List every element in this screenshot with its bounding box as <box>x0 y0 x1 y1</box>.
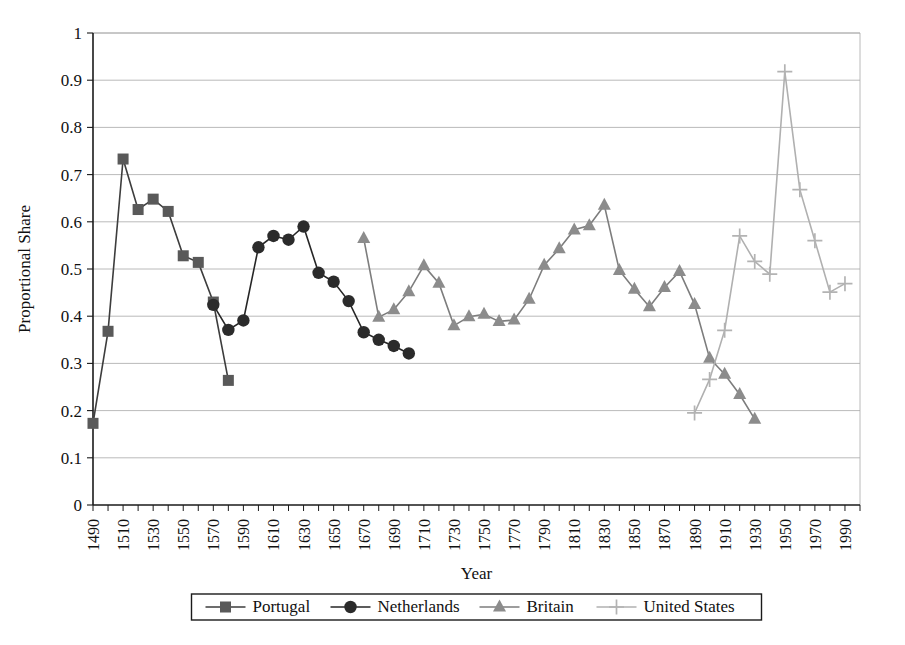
data-marker-square <box>220 602 231 613</box>
y-tick-label: 0.5 <box>61 260 82 279</box>
x-tick-label: 1690 <box>386 519 403 551</box>
x-tick-label: 1710 <box>416 519 433 551</box>
x-tick-label: 1510 <box>115 519 132 551</box>
data-marker-square <box>178 250 189 261</box>
x-tick-label: 1490 <box>85 519 102 551</box>
data-marker-plus <box>807 233 822 248</box>
data-marker-circle <box>252 241 264 253</box>
data-marker-triangle <box>703 351 716 363</box>
data-marker-circle <box>342 295 354 307</box>
legend-label: Britain <box>527 597 575 616</box>
legend-item-britain[interactable]: Britain <box>480 597 575 616</box>
proportional-share-line-chart: 00.10.20.30.40.50.60.70.80.9114901510153… <box>0 0 905 645</box>
x-tick-label: 1950 <box>777 519 794 551</box>
x-tick-label: 1850 <box>626 519 643 551</box>
series-portugal <box>88 154 234 429</box>
data-marker-circle <box>267 230 279 242</box>
data-marker-circle <box>327 276 339 288</box>
data-marker-square <box>133 204 144 215</box>
data-marker-triangle <box>417 258 430 270</box>
legend-label: Netherlands <box>378 597 460 616</box>
legend-label: Portugal <box>253 597 311 616</box>
x-tick-label: 1910 <box>717 519 734 551</box>
x-tick-label: 1930 <box>747 519 764 551</box>
x-tick-label: 1530 <box>145 519 162 551</box>
data-marker-square <box>193 257 204 268</box>
data-marker-triangle <box>447 318 460 330</box>
x-tick-label: 1870 <box>656 519 673 551</box>
data-marker-circle <box>312 267 324 279</box>
legend-label: United States <box>644 597 735 616</box>
x-tick-label: 1730 <box>446 519 463 551</box>
series-netherlands <box>207 220 415 359</box>
y-tick-label: 1 <box>74 24 83 43</box>
data-marker-circle <box>373 334 385 346</box>
y-axis-title: Proportional Share <box>15 205 34 333</box>
series-line <box>93 159 228 423</box>
data-marker-triangle <box>402 284 415 296</box>
y-axis-ticks: 00.10.20.30.40.50.60.70.80.91 <box>61 24 93 515</box>
y-tick-label: 0.3 <box>61 354 82 373</box>
chart-container: 00.10.20.30.40.50.60.70.80.9114901510153… <box>0 0 905 645</box>
data-marker-square <box>223 375 234 386</box>
data-marker-triangle <box>523 292 536 304</box>
x-tick-label: 1890 <box>687 519 704 551</box>
data-marker-square <box>118 154 129 165</box>
data-marker-square <box>163 206 174 217</box>
data-marker-triangle <box>493 600 506 612</box>
legend-item-united-states[interactable]: United States <box>597 597 735 616</box>
y-tick-label: 0.2 <box>61 402 82 421</box>
y-tick-label: 0.1 <box>61 449 82 468</box>
data-marker-circle <box>282 234 294 246</box>
x-tick-label: 1830 <box>596 519 613 551</box>
legend-item-netherlands[interactable]: Netherlands <box>331 597 460 616</box>
data-marker-square <box>148 194 159 205</box>
x-tick-label: 1590 <box>235 519 252 551</box>
y-tick-label: 0 <box>74 496 83 515</box>
y-tick-label: 0.6 <box>61 213 82 232</box>
data-marker-circle <box>358 326 370 338</box>
data-marker-circle <box>237 314 249 326</box>
y-tick-label: 0.9 <box>61 71 82 90</box>
x-tick-label: 1670 <box>356 519 373 551</box>
data-marker-circle <box>388 340 400 352</box>
data-marker-triangle <box>478 307 491 319</box>
series-line <box>695 72 845 413</box>
data-marker-plus <box>609 600 624 615</box>
data-marker-plus <box>822 285 837 300</box>
y-tick-label: 0.4 <box>61 307 83 326</box>
x-tick-label: 1790 <box>536 519 553 551</box>
x-tick-label: 1570 <box>205 519 222 551</box>
data-marker-triangle <box>357 231 370 243</box>
data-marker-plus <box>717 323 732 338</box>
x-tick-label: 1810 <box>566 519 583 551</box>
x-axis-ticks: 1490151015301550157015901610163016501670… <box>85 505 860 551</box>
y-tick-label: 0.8 <box>61 118 82 137</box>
legend: PortugalNetherlandsBritainUnited States <box>192 594 762 620</box>
legend-item-portugal[interactable]: Portugal <box>206 597 311 616</box>
x-tick-label: 1990 <box>837 519 854 551</box>
data-marker-plus <box>702 372 717 387</box>
data-marker-triangle <box>673 264 686 276</box>
x-tick-label: 1630 <box>296 519 313 551</box>
data-marker-plus <box>837 276 852 291</box>
y-tick-label: 0.7 <box>61 166 83 185</box>
data-marker-circle <box>344 601 356 613</box>
x-tick-label: 1610 <box>265 519 282 551</box>
data-marker-triangle <box>598 198 611 210</box>
data-marker-circle <box>403 347 415 359</box>
series-united-states <box>687 64 852 420</box>
data-marker-circle <box>207 299 219 311</box>
data-marker-circle <box>222 324 234 336</box>
x-tick-label: 1750 <box>476 519 493 551</box>
data-marker-plus <box>732 228 747 243</box>
x-tick-label: 1550 <box>175 519 192 551</box>
x-tick-label: 1650 <box>326 519 343 551</box>
x-tick-label: 1770 <box>506 519 523 551</box>
data-marker-square <box>88 418 99 429</box>
series-britain <box>357 198 761 424</box>
data-marker-plus <box>777 64 792 79</box>
x-tick-label: 1970 <box>807 519 824 551</box>
x-axis-title: Year <box>461 564 493 583</box>
data-marker-plus <box>792 182 807 197</box>
